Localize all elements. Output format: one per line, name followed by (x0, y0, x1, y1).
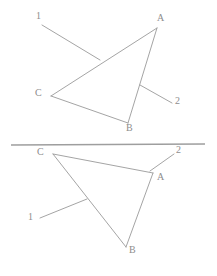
lower-triangle-edge-AB (126, 173, 153, 247)
lower-force-label-1: 1 (28, 212, 33, 222)
upper-leader-line-2 (140, 85, 172, 103)
upper-triangle-group (42, 25, 172, 123)
diagram-canvas: 1 2 A B C 1 2 C A B (0, 0, 217, 276)
lower-triangle-edge-CA (53, 154, 153, 173)
lower-vertex-label-c: C (37, 147, 44, 157)
lower-leader-line-2 (150, 154, 174, 171)
upper-force-label-2: 2 (175, 96, 180, 106)
upper-force-label-1: 1 (36, 11, 41, 21)
lower-leader-line-1 (40, 199, 87, 218)
lower-triangle-group (40, 154, 174, 247)
upper-triangle-edge-BC (51, 96, 128, 123)
lower-triangle-edge-BC (53, 154, 126, 247)
upper-vertex-label-b: B (126, 123, 133, 133)
lower-vertex-label-b: B (129, 245, 136, 255)
upper-leader-line-1 (42, 25, 100, 60)
lower-vertex-label-a: A (157, 172, 164, 182)
upper-vertex-label-a: A (157, 13, 164, 23)
upper-triangle-edge-AB (128, 28, 157, 123)
lower-force-label-2: 2 (176, 145, 181, 155)
diagram-svg (0, 0, 217, 276)
upper-vertex-label-c: C (35, 88, 42, 98)
